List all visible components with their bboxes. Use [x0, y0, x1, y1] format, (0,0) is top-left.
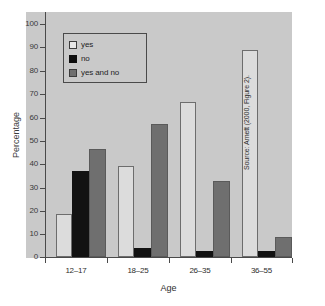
x-axis-tick	[292, 258, 293, 263]
x-axis-group-label-26-35: 26–35	[169, 266, 231, 275]
bar-no-36-55	[258, 251, 275, 257]
y-axis-tick	[40, 118, 46, 119]
bar-no-18-25	[134, 248, 151, 257]
y-axis-tick	[40, 94, 46, 95]
y-axis-tick	[40, 71, 46, 72]
bar-yes-and-no-36-55	[275, 237, 292, 257]
y-axis-tick	[40, 234, 46, 235]
y-axis-tick	[40, 188, 46, 189]
y-axis-tick-label: 30	[0, 184, 38, 192]
y-axis-tick	[40, 47, 46, 48]
bar-yes-and-no-26-35	[213, 181, 230, 257]
y-axis-tick-label: 80	[0, 67, 38, 75]
bar-yes-and-no-12-17	[89, 149, 106, 257]
x-axis-group-label-18-25: 18–25	[107, 266, 169, 275]
legend-label-no: no	[81, 54, 90, 63]
bar-no-26-35	[196, 251, 213, 257]
x-axis-group-label-36-55: 36–55	[231, 266, 292, 275]
y-axis-tick-label: 0	[0, 253, 38, 261]
bar-yes-12-17	[56, 214, 72, 257]
bar-yes-and-no-18-25	[151, 124, 168, 257]
legend-swatch-yes-and-no-icon	[69, 69, 77, 77]
y-axis-tick-label: 90	[0, 43, 38, 51]
x-axis-tick	[231, 258, 232, 263]
y-axis-tick	[40, 141, 46, 142]
legend-swatch-yes-icon	[69, 41, 77, 49]
y-axis-tick-label: 10	[0, 230, 38, 238]
y-axis-tick	[40, 164, 46, 165]
legend-item-yes: yes	[69, 38, 141, 51]
legend-item-no: no	[69, 52, 141, 65]
legend-item-yes-and-no: yes and no	[69, 66, 141, 79]
y-axis-title: Percentage	[11, 85, 21, 185]
legend-swatch-no-icon	[69, 55, 77, 63]
x-axis-tick	[45, 258, 46, 263]
legend-label-yes-and-no: yes and no	[81, 68, 119, 77]
bar-no-12-17	[72, 171, 89, 257]
bar-yes-26-35	[180, 102, 196, 257]
y-axis-tick-label: 100	[0, 20, 38, 28]
y-axis-tick	[40, 24, 46, 25]
source-note: Source: Arnett (2000, Figure 2).	[243, 20, 250, 170]
legend-label-yes: yes	[81, 40, 93, 49]
x-axis-tick	[107, 258, 108, 263]
y-axis-line	[45, 12, 46, 258]
figure-container: 100 90 80 70 60 50 40 30 20 10 0 12–17 1…	[0, 0, 325, 306]
legend: yes no yes and no	[63, 33, 147, 83]
x-axis-group-label-12-17: 12–17	[45, 266, 107, 275]
y-axis-tick-label: 20	[0, 207, 38, 215]
x-axis-tick	[169, 258, 170, 263]
y-axis-tick	[40, 211, 46, 212]
x-axis-title: Age	[45, 283, 292, 293]
bar-yes-18-25	[118, 166, 134, 257]
